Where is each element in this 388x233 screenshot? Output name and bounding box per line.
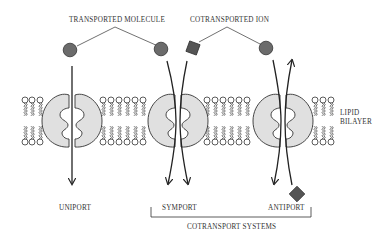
transported-molecule-label: TRANSPORTED MOLECULE: [69, 16, 165, 24]
uniport-label: UNIPORT: [59, 204, 92, 212]
cotransported-ion-antiport: [289, 186, 305, 202]
cotransport-systems-label: COTRANSPORT SYSTEMS: [187, 223, 276, 231]
antiport-protein: [253, 94, 313, 147]
cotransport-diagram: TRANSPORTED MOLECULE COTRANSPORTED ION L…: [0, 0, 388, 233]
symport-protein: [148, 94, 208, 147]
transported-molecule-antiport: [259, 41, 273, 55]
transported-molecule-uniport: [63, 43, 77, 57]
transported-molecule-symport: [154, 42, 168, 56]
cotransported-ion-symport: [186, 41, 200, 55]
symport-label: SYMPORT: [162, 204, 197, 212]
cotransported-ion-label: COTRANSPORTED ION: [190, 16, 270, 24]
lipid-label: LIPID: [340, 109, 359, 117]
bilayer-label: BILAYER: [340, 118, 372, 126]
antiport-label: ANTIPORT: [268, 204, 305, 212]
